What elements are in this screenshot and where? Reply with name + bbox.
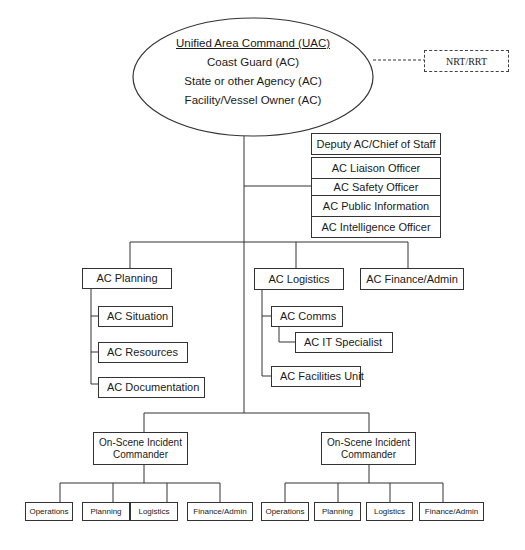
planning-node: AC Planning	[82, 268, 172, 289]
nrt-rrt-node: NRT/RRT	[424, 50, 509, 72]
finance-admin-node: AC Finance/Admin	[360, 268, 464, 290]
public-information-node: AC Public Information	[311, 195, 441, 217]
osc-right-logistics: Logistics	[366, 502, 413, 521]
osc-left-finance-admin: Finance/Admin	[187, 502, 253, 521]
safety-officer-node: AC Safety Officer	[311, 178, 441, 196]
uac-member-coast-guard: Coast Guard (AC)	[133, 53, 373, 72]
osc-left-planning: Planning	[82, 502, 130, 521]
osc-left-operations: Operations	[25, 502, 73, 521]
uac-node: Unified Area Command (UAC) Coast Guard (…	[133, 34, 373, 110]
liaison-officer-node: AC Liaison Officer	[311, 157, 441, 179]
uac-title: Unified Area Command (UAC)	[133, 34, 373, 53]
deputy-chief-of-staff-node: Deputy AC/Chief of Staff	[311, 133, 441, 155]
it-specialist-node: AC IT Specialist	[295, 332, 393, 353]
uac-member-state-agency: State or other Agency (AC)	[133, 72, 373, 91]
osc-right-planning: Planning	[314, 502, 361, 521]
osc-right-finance-admin: Finance/Admin	[419, 502, 484, 521]
osc-left-node: On-Scene Incident Commander	[93, 432, 188, 465]
resources-unit-node: AC Resources	[98, 342, 188, 363]
intelligence-officer-node: AC Intelligence Officer	[311, 216, 441, 238]
osc-left-logistics: Logistics	[130, 502, 178, 521]
comms-unit-node: AC Comms	[271, 306, 343, 327]
documentation-unit-node: AC Documentation	[98, 377, 205, 398]
osc-right-node: On-Scene Incident Commander	[321, 432, 416, 465]
uac-member-owner: Facility/Vessel Owner (AC)	[133, 91, 373, 110]
osc-right-operations: Operations	[261, 502, 309, 521]
logistics-node: AC Logistics	[254, 268, 344, 290]
situation-unit-node: AC Situation	[98, 306, 173, 327]
facilities-unit-node: AC Facilities Unit	[271, 366, 361, 387]
